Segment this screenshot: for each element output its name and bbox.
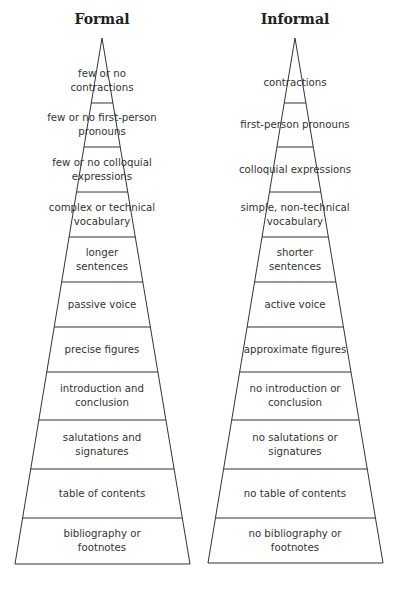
formal-level-1: few or nocontractions: [70, 67, 133, 95]
informal-level-11: no bibliography orfootnotes: [248, 527, 341, 555]
informal-level-1: contractions: [263, 76, 326, 90]
informal-level-3: colloquial expressions: [239, 163, 351, 177]
formal-level-8: introduction andconclusion: [60, 382, 144, 410]
informal-level-10: no table of contents: [244, 487, 346, 501]
formal-level-9: salutations andsignatures: [63, 431, 141, 459]
informal-level-7: approximate figures: [244, 343, 346, 357]
informal-level-9: no salutations orsignatures: [252, 431, 338, 459]
formal-level-5: longersentences: [76, 246, 128, 274]
informal-level-8: no introduction orconclusion: [249, 382, 340, 410]
formal-level-7: precise figures: [65, 343, 140, 357]
formal-level-11: bibliography orfootnotes: [63, 527, 140, 555]
informal-level-2: first-person pronouns: [240, 118, 349, 132]
formal-level-6: passive voice: [68, 298, 137, 312]
formal-informal-pyramid-diagram: Formal Informal few or nocontractionsfew…: [0, 0, 402, 601]
formal-level-3: few or no colloquialexpressions: [52, 156, 152, 184]
informal-level-5: shortersentences: [269, 246, 321, 274]
formal-level-10: table of contents: [59, 487, 145, 501]
informal-level-6: active voice: [264, 298, 325, 312]
formal-title: Formal: [42, 11, 162, 27]
pyramid-outlines: [0, 0, 402, 601]
informal-title: Informal: [235, 11, 355, 27]
informal-level-4: simple, non-technicalvocabulary: [240, 201, 349, 229]
formal-level-2: few or no first-personpronouns: [47, 111, 157, 139]
formal-level-4: complex or technicalvocabulary: [49, 201, 155, 229]
